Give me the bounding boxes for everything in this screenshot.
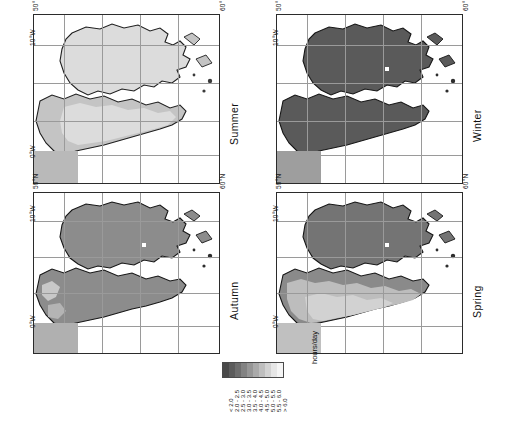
gridline — [34, 221, 219, 222]
gridline — [277, 257, 462, 258]
legend-colorbar — [222, 362, 284, 378]
gridline — [277, 121, 462, 122]
gridline — [34, 257, 219, 258]
axis-tick-lat: 50°N — [275, 174, 282, 189]
gridline — [34, 83, 219, 84]
legend: < 2.02.0 - 2.52.5 - 3.03.0 - 3.53.5 - 4.… — [218, 358, 348, 430]
gridline — [178, 193, 179, 353]
panel-label-spring: Spring — [471, 285, 483, 318]
gridline — [102, 193, 103, 353]
axis-tick-lon: 10°W — [272, 205, 279, 222]
axis-tick-lat: 60°N — [219, 0, 226, 11]
sea-patch — [34, 323, 78, 353]
gridline — [345, 15, 346, 183]
gridline — [140, 15, 141, 183]
seasonal-sunshine-figure: 50°N 60°N 10°W 0°W Summer 50°N 60°N 10°W… — [0, 0, 519, 432]
sea-patch — [277, 151, 321, 183]
axis-tick-lon: 10°W — [29, 29, 36, 46]
axis-tick-lon: 0°W — [29, 315, 36, 328]
sea-patch — [34, 151, 78, 183]
panel-spring — [276, 192, 463, 354]
gridline — [277, 221, 462, 222]
axis-tick-lat: 50°N — [275, 0, 282, 11]
gridline — [102, 15, 103, 183]
axis-tick-lon: 0°W — [272, 315, 279, 328]
legend-unit-label: hours/day — [310, 331, 319, 364]
gridline — [178, 15, 179, 183]
axis-tick-lon: 10°W — [29, 205, 36, 222]
gridline — [421, 193, 422, 353]
panel-summer — [33, 14, 220, 184]
panel-label-winter: Winter — [471, 109, 483, 142]
panel-autumn — [33, 192, 220, 354]
axis-tick-lon: 0°W — [29, 145, 36, 158]
gridline — [421, 15, 422, 183]
axis-tick-lat: 60°N — [462, 174, 469, 189]
axis-tick-lat: 50°N — [32, 174, 39, 189]
gridline — [140, 193, 141, 353]
axis-tick-lat: 60°N — [462, 0, 469, 11]
axis-tick-lat: 60°N — [219, 174, 226, 189]
gridline — [34, 45, 219, 46]
panel-label-autumn: Autumn — [228, 281, 240, 320]
legend-swatch — [277, 363, 283, 377]
gridline — [383, 193, 384, 353]
axis-tick-lon: 10°W — [272, 29, 279, 46]
gridline — [345, 193, 346, 353]
panel-label-summer: Summer — [228, 103, 240, 145]
axis-tick-lat: 50°N — [32, 0, 39, 11]
gridline — [383, 15, 384, 183]
legend-swatch-label: > 6.0 — [282, 398, 288, 412]
gridline — [277, 45, 462, 46]
panel-winter — [276, 14, 463, 184]
gridline — [277, 83, 462, 84]
gridline — [277, 293, 462, 294]
gridline — [34, 121, 219, 122]
gridline — [34, 293, 219, 294]
